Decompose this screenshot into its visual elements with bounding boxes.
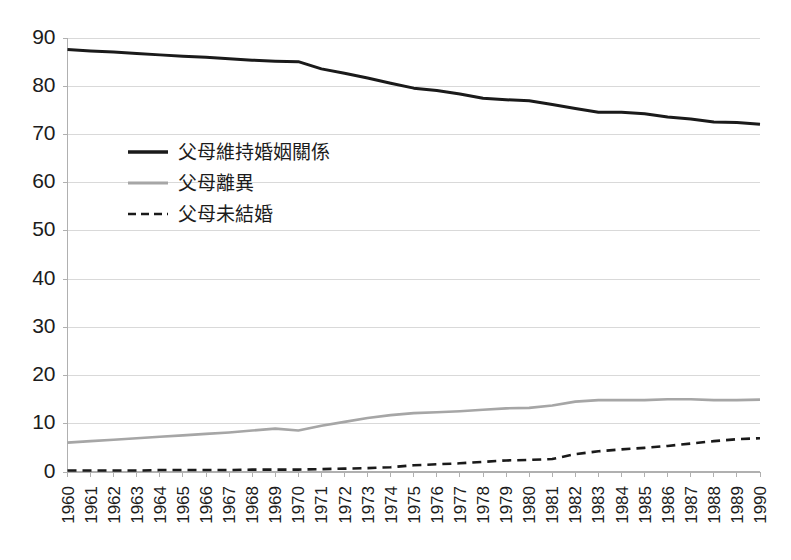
- x-tick-label-1988: 1988: [705, 486, 724, 524]
- x-tick-label-1984: 1984: [613, 486, 632, 524]
- y-tick-label-50: 50: [32, 217, 55, 240]
- x-tick-label-1979: 1979: [497, 486, 516, 524]
- legend-label-1: 父母離異: [178, 172, 254, 194]
- y-tick-label-70: 70: [32, 121, 55, 144]
- x-tick-label-1983: 1983: [589, 486, 608, 524]
- y-tick-label-10: 10: [32, 410, 55, 433]
- x-tick-labels: 1960196119621963196419651966196719681969…: [59, 486, 771, 524]
- y-tick-label-30: 30: [32, 314, 55, 337]
- x-tick-label-1965: 1965: [174, 486, 193, 524]
- x-tick-label-1970: 1970: [289, 486, 308, 524]
- x-tick-label-1990: 1990: [751, 486, 770, 524]
- x-tick-label-1967: 1967: [220, 486, 239, 524]
- x-tick-label-1982: 1982: [566, 486, 585, 524]
- y-tick-label-40: 40: [32, 266, 55, 289]
- y-tick-label-0: 0: [44, 459, 56, 482]
- x-tick-label-1971: 1971: [312, 486, 331, 524]
- x-tick-label-1977: 1977: [451, 486, 470, 524]
- x-tick-label-1985: 1985: [636, 486, 655, 524]
- legend-label-0: 父母維持婚姻關係: [178, 141, 330, 163]
- x-tick-label-1975: 1975: [405, 486, 424, 524]
- y-tick-label-80: 80: [32, 73, 55, 96]
- x-tick-label-1987: 1987: [682, 486, 701, 524]
- x-tick-label-1966: 1966: [197, 486, 216, 524]
- x-tick-label-1986: 1986: [659, 486, 678, 524]
- x-tick-label-1964: 1964: [151, 486, 170, 524]
- legend-label-2: 父母未結婚: [178, 203, 273, 225]
- x-tick-label-1968: 1968: [243, 486, 262, 524]
- y-tick-label-20: 20: [32, 362, 55, 385]
- x-tick-label-1978: 1978: [474, 486, 493, 524]
- chart-canvas: 0102030405060708090 19601961196219631964…: [0, 0, 791, 560]
- x-tick-label-1980: 1980: [520, 486, 539, 524]
- x-tick-label-1981: 1981: [543, 486, 562, 524]
- x-tick-label-1973: 1973: [359, 486, 378, 524]
- y-tick-label-90: 90: [32, 25, 55, 48]
- line-chart: 0102030405060708090 19601961196219631964…: [0, 0, 791, 560]
- x-tick-label-1963: 1963: [128, 486, 147, 524]
- x-tick-label-1960: 1960: [59, 486, 78, 524]
- x-tick-label-1976: 1976: [428, 486, 447, 524]
- y-tick-label-60: 60: [32, 169, 55, 192]
- x-tick-label-1974: 1974: [382, 486, 401, 524]
- x-tick-label-1989: 1989: [728, 486, 747, 524]
- x-tick-label-1961: 1961: [82, 486, 101, 524]
- x-tick-label-1969: 1969: [266, 486, 285, 524]
- x-tick-label-1962: 1962: [105, 486, 124, 524]
- x-tick-label-1972: 1972: [336, 486, 355, 524]
